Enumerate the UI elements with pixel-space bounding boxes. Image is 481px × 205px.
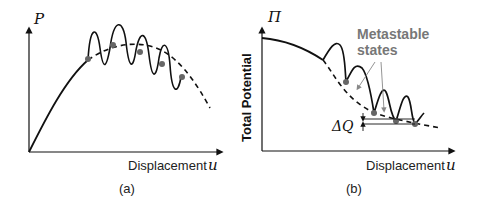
y-axis-label-b: Total Potential xyxy=(239,53,254,142)
caption-a: (a) xyxy=(119,181,135,196)
loading-curve-a xyxy=(29,60,88,152)
x-axis-label-b: Displacement xyxy=(366,158,445,173)
panel-a: P Displacement u (a) xyxy=(29,10,220,196)
oscillation-curve-a xyxy=(88,25,181,90)
x-axis-symbol-a: u xyxy=(208,156,218,174)
figure-canvas: P Displacement u (a) ΔQ Metastable st xyxy=(0,0,481,205)
metastable-annotation-line2: states xyxy=(357,42,398,58)
y-axis-symbol-b: Π xyxy=(267,8,282,26)
x-axis-symbol-b: u xyxy=(446,156,456,174)
panel-b: ΔQ Metastable states Π Total Potential D… xyxy=(239,8,456,196)
metastable-dots-b xyxy=(343,79,418,127)
delta-q-label: ΔQ xyxy=(331,118,354,134)
caption-b: (b) xyxy=(346,181,362,196)
y-axis-label-a: P xyxy=(33,10,45,28)
potential-curve-b xyxy=(262,38,323,60)
metastable-annotation-line1: Metastable xyxy=(357,26,430,42)
x-axis-label-a: Displacement xyxy=(128,158,207,173)
